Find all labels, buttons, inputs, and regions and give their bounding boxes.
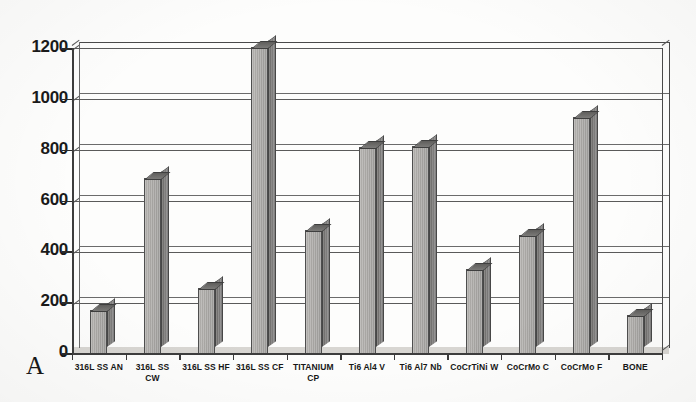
x-tick-mark xyxy=(662,354,663,360)
bar-chart: 020040060080010001200 316L SS AN316L SS … xyxy=(0,0,696,402)
x-tick-mark xyxy=(501,354,502,360)
bar-side-face xyxy=(322,218,330,347)
x-axis-label: CoCrMo F xyxy=(551,362,613,373)
frame-right-back xyxy=(669,42,670,348)
bar-front-face xyxy=(198,288,215,353)
y-tick-mark xyxy=(62,48,72,50)
bar-front-face xyxy=(412,146,429,353)
y-tick-label: 1200 xyxy=(10,37,68,57)
bar-front-face xyxy=(305,230,322,353)
y-tick-label: 1000 xyxy=(10,88,68,108)
bar xyxy=(573,117,590,353)
bar-side-face xyxy=(483,257,491,347)
y-tick-mark xyxy=(62,251,72,253)
x-tick-mark xyxy=(179,354,180,360)
x-tick-mark xyxy=(72,354,73,360)
bar-side-face xyxy=(429,134,437,347)
bar-front-face xyxy=(90,310,107,353)
bar xyxy=(627,315,644,353)
x-axis-label: 316L SS CF xyxy=(229,362,291,373)
frame-right-front xyxy=(662,48,663,354)
x-tick-mark xyxy=(447,354,448,360)
figure-panel: 020040060080010001200 316L SS AN316L SS … xyxy=(0,0,696,402)
bar-side-face xyxy=(161,166,169,347)
bar-side-face xyxy=(268,35,276,347)
bar xyxy=(90,310,107,353)
x-axis-label: BONE xyxy=(604,362,666,373)
bar xyxy=(412,146,429,353)
y-tick-mark xyxy=(62,353,72,355)
x-axis-label: TITANIUM CP xyxy=(283,362,345,383)
x-tick-mark xyxy=(340,354,341,360)
x-tick-mark xyxy=(394,354,395,360)
x-tick-mark xyxy=(608,354,609,360)
y-tick-mark xyxy=(62,201,72,203)
gridline-1000 xyxy=(72,99,662,100)
y-tick-mark xyxy=(62,99,72,101)
bar xyxy=(144,178,161,353)
bar xyxy=(251,47,268,353)
bar-front-face xyxy=(627,315,644,353)
y-tick-label: 200 xyxy=(10,291,68,311)
x-axis-label: CoCrMo C xyxy=(497,362,559,373)
bar-front-face xyxy=(466,269,483,353)
y-tick-label: 400 xyxy=(10,240,68,260)
x-axis xyxy=(72,353,662,355)
bar-front-face xyxy=(359,147,376,353)
bar-front-face xyxy=(144,178,161,353)
bar-side-face xyxy=(590,105,598,347)
bar-side-face xyxy=(376,135,384,347)
x-axis-label: Ti6 Al7 Nb xyxy=(390,362,452,373)
frame-top xyxy=(79,42,669,43)
y-axis xyxy=(72,48,74,354)
bar-front-face xyxy=(251,47,268,353)
x-axis-label: CoCrTiNi W xyxy=(443,362,505,373)
bar xyxy=(359,147,376,353)
bar-front-face xyxy=(519,235,536,353)
x-tick-mark xyxy=(555,354,556,360)
x-tick-mark xyxy=(126,354,127,360)
bar-front-face xyxy=(573,117,590,353)
bar xyxy=(519,235,536,353)
x-axis-label: 316L SS HF xyxy=(175,362,237,373)
x-tick-mark xyxy=(233,354,234,360)
x-axis-label: 316L SS AN xyxy=(68,362,130,373)
bar xyxy=(466,269,483,353)
gridline-1200 xyxy=(72,48,662,49)
y-tick-mark xyxy=(62,150,72,152)
x-tick-mark xyxy=(287,354,288,360)
panel-letter: A xyxy=(26,352,44,380)
y-tick-label: 800 xyxy=(10,139,68,159)
x-axis-label: 316L SS CW xyxy=(122,362,184,383)
bar xyxy=(305,230,322,353)
gridline-back-1000 xyxy=(79,93,669,94)
x-axis-label: Ti6 Al4 V xyxy=(336,362,398,373)
bar xyxy=(198,288,215,353)
y-tick-label: 600 xyxy=(10,190,68,210)
bar-side-face xyxy=(536,223,544,347)
y-tick-mark xyxy=(62,302,72,304)
